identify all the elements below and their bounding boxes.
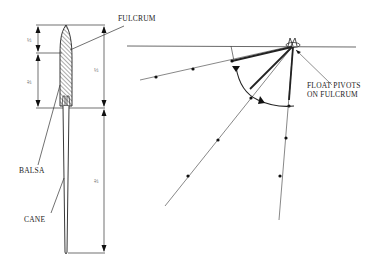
label-cane: CANE <box>24 215 45 224</box>
cane-leader <box>51 178 64 213</box>
dimension-arrow-icon <box>102 245 107 252</box>
float-position-2 <box>250 47 292 89</box>
shot-weight <box>284 136 287 139</box>
shot-weight <box>154 75 157 78</box>
vertical-drop-line <box>231 46 234 61</box>
fulcrum-leader <box>70 26 124 50</box>
float-tip-icon <box>288 38 297 46</box>
dim-left-upper: ⅓ <box>27 37 32 43</box>
float-position-3 <box>289 47 293 100</box>
dimension-arrow-icon <box>102 100 107 107</box>
shot-weight <box>230 59 233 62</box>
pivot-arrow-icon <box>296 50 301 54</box>
arc-arrow-icon <box>258 96 265 104</box>
line-position-1 <box>140 46 292 80</box>
dimension-arrow-icon <box>36 100 41 107</box>
arc-arrow-icon <box>232 66 240 72</box>
shot-weight <box>191 67 194 70</box>
dimension-arrow-icon <box>102 26 107 33</box>
balsa-body <box>60 25 72 106</box>
balsa-leader <box>38 85 60 165</box>
dim-left-lower: ⅔ <box>27 79 32 85</box>
dim-right-lower: ⅔ <box>94 178 99 184</box>
pivot-leader <box>296 50 332 85</box>
dimension-arrow-icon <box>36 26 41 33</box>
label-pivot-line1: FLOAT PIVOTS <box>307 81 361 90</box>
water-surface-line <box>127 46 356 47</box>
label-fulcrum: FULCRUM <box>118 14 156 23</box>
shot-weight <box>186 174 189 177</box>
cane-stem <box>63 106 69 254</box>
float-figure: ⅓ ⅔ ⅓ ⅔ FULCRUM BALSA CANE <box>19 14 156 254</box>
shot-weight <box>216 138 219 141</box>
dim-right-upper: ⅓ <box>94 67 99 73</box>
float-position-1 <box>232 47 292 61</box>
line-position-2 <box>165 47 292 206</box>
dimension-arrow-icon <box>36 45 41 52</box>
label-balsa: BALSA <box>19 166 45 175</box>
label-pivot-line2: ON FULCRUM <box>307 90 358 99</box>
pivot-figure: FLOAT PIVOTS ON FULCRUM <box>127 38 361 220</box>
dimension-arrow-icon <box>36 54 41 61</box>
dimension-arrow-icon <box>102 109 107 116</box>
shot-weight <box>278 174 281 177</box>
diagram-canvas: ⅓ ⅔ ⅓ ⅔ FULCRUM BALSA CANE <box>0 0 382 271</box>
